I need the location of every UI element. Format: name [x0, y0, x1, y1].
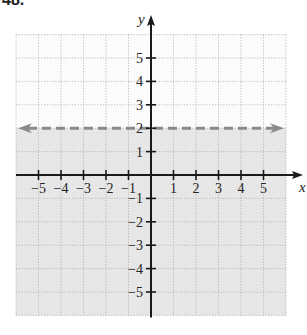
x-tick-label: 1 — [170, 181, 177, 196]
coordinate-plane: −5−4−3−2−11234554321−1−2−3−4−5xy — [0, 0, 307, 335]
y-tick-label: −1 — [128, 191, 143, 206]
y-tick-label: 1 — [136, 145, 143, 160]
y-axis-label: y — [136, 11, 145, 27]
x-tick-label: −3 — [76, 181, 91, 196]
x-axis-label: x — [298, 179, 306, 195]
y-tick-label: 3 — [136, 98, 143, 113]
x-tick-label: −5 — [31, 181, 46, 196]
x-tick-label: 2 — [193, 181, 200, 196]
y-tick-label: −3 — [128, 238, 143, 253]
x-tick-label: 4 — [238, 181, 245, 196]
y-tick-label: −2 — [128, 215, 143, 230]
y-tick-label: 2 — [136, 121, 143, 136]
y-tick-label: 4 — [136, 74, 143, 89]
x-tick-label: −4 — [54, 181, 69, 196]
y-tick-label: −4 — [128, 262, 143, 277]
x-tick-label: 3 — [215, 181, 222, 196]
x-tick-label: −2 — [99, 181, 114, 196]
y-tick-label: 5 — [136, 51, 143, 66]
y-tick-label: −5 — [128, 285, 143, 300]
x-tick-label: 5 — [260, 181, 267, 196]
